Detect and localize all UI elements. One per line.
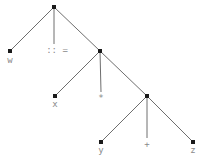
parse-tree-diagram: w :: = x * y + z: [0, 0, 204, 165]
tree-nodes: [8, 5, 195, 144]
label-times: *: [98, 93, 103, 103]
edge-n1-times: [100, 51, 101, 92]
node-w: [8, 49, 12, 53]
node-root: [52, 5, 56, 9]
edge-n2-y: [101, 96, 147, 142]
label-z: z: [190, 145, 195, 155]
edge-n1-x: [55, 51, 100, 96]
label-assign: :: =: [46, 45, 68, 55]
node-z: [191, 140, 195, 144]
label-w: w: [7, 55, 13, 65]
edge-n1-n2: [100, 51, 147, 96]
tree-edges: [10, 7, 193, 142]
label-plus: +: [144, 139, 150, 149]
label-y: y: [98, 145, 104, 155]
edge-n2-z: [147, 96, 193, 142]
node-n2: [145, 94, 149, 98]
node-y: [99, 140, 103, 144]
tree-labels: w :: = x * y + z: [7, 45, 195, 155]
node-n1: [98, 49, 102, 53]
node-x: [53, 94, 57, 98]
label-x: x: [52, 99, 58, 109]
